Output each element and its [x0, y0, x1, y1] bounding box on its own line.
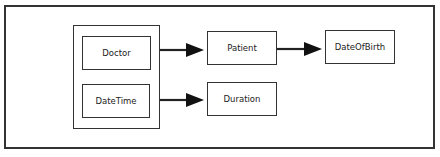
arrows-layer — [0, 0, 440, 157]
arrow-datetime-to-duration — [160, 93, 204, 107]
arrow-doctor-to-patient — [160, 43, 204, 57]
arrow-patient-to-dateofbirth — [277, 42, 322, 56]
